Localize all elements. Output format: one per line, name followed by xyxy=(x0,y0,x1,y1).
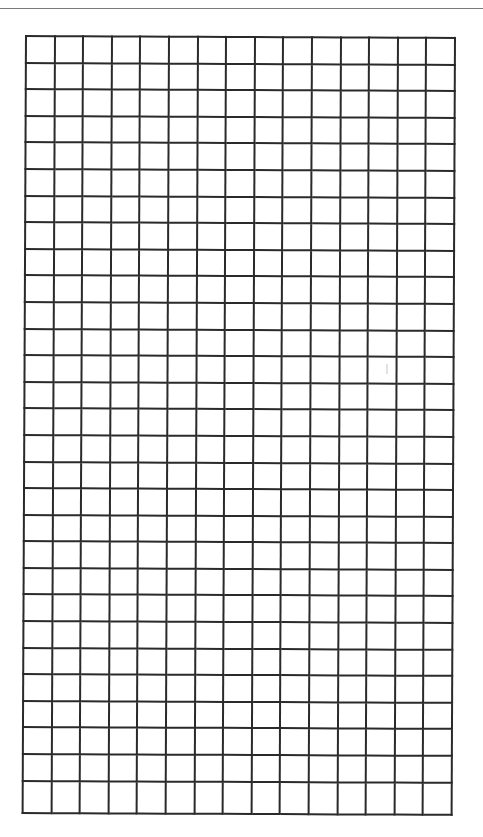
grid-cell xyxy=(109,701,138,728)
grid-cell xyxy=(395,596,424,623)
grid-cell xyxy=(195,622,224,649)
grid-cell xyxy=(283,64,312,91)
grid-cell xyxy=(138,489,167,516)
grid-cell xyxy=(137,728,166,755)
grid-cell xyxy=(23,648,52,675)
grid-cell xyxy=(139,276,168,303)
grid-cell xyxy=(110,409,139,436)
grid-cell xyxy=(109,542,138,569)
grid-cell xyxy=(80,781,109,813)
grid-cell xyxy=(223,622,252,649)
grid-cell xyxy=(369,64,398,91)
grid-cell xyxy=(111,196,140,223)
grid-cell xyxy=(80,701,109,728)
grid-cell xyxy=(254,276,283,303)
grid-cell xyxy=(283,90,312,117)
grid-row xyxy=(23,674,452,702)
grid-cell xyxy=(112,63,141,90)
grid-cell xyxy=(368,250,397,277)
grid-cell xyxy=(197,250,226,277)
grid-cell xyxy=(53,435,82,462)
grid-cell xyxy=(395,569,424,596)
grid-cell xyxy=(425,250,454,277)
grid-cell xyxy=(197,117,226,144)
grid-cell xyxy=(338,489,367,516)
grid-cell xyxy=(366,623,395,650)
grid-row xyxy=(26,63,455,91)
grid-cell xyxy=(26,89,55,116)
grid-cell xyxy=(168,223,197,250)
grid-cell xyxy=(425,304,454,331)
grid-cell xyxy=(83,36,112,63)
grid-cell xyxy=(337,729,366,756)
grid-cell xyxy=(338,569,367,596)
grid-cell xyxy=(339,383,368,410)
grid-cell xyxy=(397,250,426,277)
grid-cell xyxy=(23,621,52,648)
grid-cell xyxy=(426,144,455,171)
grid-cell xyxy=(137,701,166,728)
grid-cell xyxy=(138,568,167,595)
grid-cell xyxy=(311,303,340,330)
grid-cell xyxy=(54,222,83,249)
grid-cell xyxy=(83,116,112,143)
grid-cell xyxy=(23,701,52,728)
grid-cell xyxy=(309,729,338,756)
grid-cell xyxy=(367,410,396,437)
grid-cell xyxy=(223,702,252,729)
grid-cell xyxy=(54,249,83,276)
grid-cell xyxy=(395,702,424,729)
grid-cell xyxy=(367,436,396,463)
grid-cell xyxy=(424,596,453,623)
grid-cell xyxy=(424,463,453,490)
grid-cell xyxy=(254,117,283,144)
grid-cell xyxy=(82,276,111,303)
grid-cell xyxy=(53,302,82,329)
grid-cell xyxy=(23,727,52,754)
grid-cell xyxy=(24,568,53,595)
grid-cell xyxy=(24,382,53,409)
grid-cell xyxy=(254,223,283,250)
grid-row xyxy=(23,594,452,622)
grid-cell xyxy=(167,409,196,436)
grid-cell xyxy=(224,409,253,436)
grid-cell xyxy=(111,249,140,276)
grid-cell xyxy=(51,754,80,781)
grid-cell xyxy=(252,569,281,596)
grid-cell xyxy=(24,355,53,382)
grid-cell xyxy=(397,277,426,304)
grid-cell xyxy=(225,196,254,223)
grid-cell xyxy=(24,408,53,435)
grid-cell xyxy=(280,729,309,756)
grid-cell xyxy=(195,648,224,675)
grid-cell xyxy=(255,64,284,91)
grid-cell xyxy=(397,224,426,251)
grid-cell xyxy=(339,463,368,490)
grid-cell xyxy=(254,143,283,170)
grid-row xyxy=(25,222,454,250)
grid-cell xyxy=(366,702,395,729)
grid-cell xyxy=(397,197,426,224)
grid-cell xyxy=(280,675,309,702)
grid-cell xyxy=(309,596,338,623)
grid-cell xyxy=(338,516,367,543)
grid-cell xyxy=(367,569,396,596)
grid-cell xyxy=(425,197,454,224)
grid-cell xyxy=(166,755,195,782)
grid-cell xyxy=(138,595,167,622)
grid-cell xyxy=(368,330,397,357)
grid-cell xyxy=(366,676,395,703)
grid-cell xyxy=(223,755,252,782)
grid-cell xyxy=(167,542,196,569)
grid-cell xyxy=(423,703,452,730)
grid-cell xyxy=(53,382,82,409)
grid-cell xyxy=(224,595,253,622)
grid-cell xyxy=(168,276,197,303)
blank-grid xyxy=(22,35,456,816)
grid-cell xyxy=(167,489,196,516)
grid-cell xyxy=(254,250,283,277)
grid-row xyxy=(23,701,452,729)
grid-cell xyxy=(195,675,224,702)
grid-cell xyxy=(395,676,424,703)
grid-cell xyxy=(311,223,340,250)
